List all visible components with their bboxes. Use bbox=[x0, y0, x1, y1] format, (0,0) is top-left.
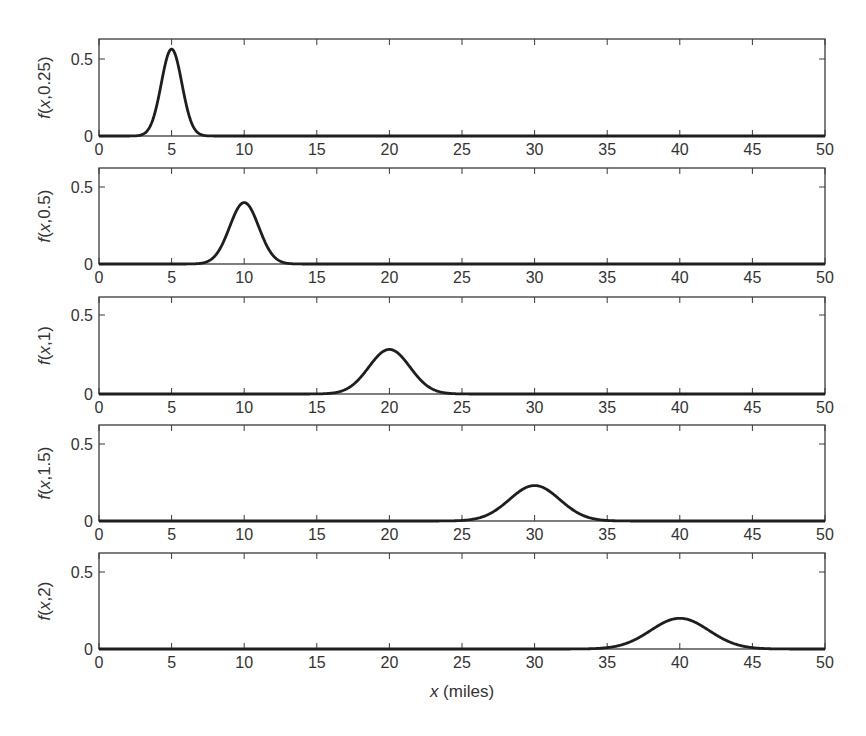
x-tick-label: 35 bbox=[598, 526, 616, 543]
y-axis-label: f(x,1.5) bbox=[35, 447, 54, 500]
y-axis-label: f(x,0.5) bbox=[35, 190, 54, 243]
x-tick-label: 35 bbox=[598, 269, 616, 286]
subplot-4: 0510152025303540455000.5f(x,1.5) bbox=[35, 425, 834, 543]
x-tick-label: 5 bbox=[167, 654, 176, 671]
x-tick-label: 35 bbox=[598, 399, 616, 416]
x-tick-label: 15 bbox=[308, 526, 326, 543]
y-tick-label: 0.5 bbox=[71, 179, 93, 196]
x-tick-label: 20 bbox=[381, 654, 399, 671]
x-tick-label: 40 bbox=[671, 141, 689, 158]
density-curve bbox=[99, 49, 825, 136]
axes-frame bbox=[99, 297, 825, 394]
x-tick-label: 0 bbox=[95, 526, 104, 543]
x-tick-label: 50 bbox=[816, 526, 834, 543]
x-tick-label: 50 bbox=[816, 141, 834, 158]
x-tick-label: 50 bbox=[816, 399, 834, 416]
x-tick-label: 20 bbox=[381, 526, 399, 543]
axes-frame bbox=[99, 39, 825, 136]
x-axis-unit: (miles) bbox=[438, 682, 494, 701]
x-tick-label: 20 bbox=[381, 141, 399, 158]
x-tick-label: 10 bbox=[235, 399, 253, 416]
subplot-3: 0510152025303540455000.5f(x,1) bbox=[35, 297, 834, 416]
x-tick-label: 10 bbox=[235, 654, 253, 671]
x-tick-label: 30 bbox=[526, 269, 544, 286]
x-tick-label: 15 bbox=[308, 654, 326, 671]
x-tick-label: 0 bbox=[95, 399, 104, 416]
x-tick-label: 0 bbox=[95, 269, 104, 286]
x-tick-label: 50 bbox=[816, 654, 834, 671]
y-tick-label: 0 bbox=[84, 513, 93, 530]
x-tick-label: 45 bbox=[744, 526, 762, 543]
y-tick-label: 0 bbox=[84, 256, 93, 273]
subplot-1: 0510152025303540455000.5f(x,0.25) bbox=[35, 39, 834, 158]
y-tick-label: 0.5 bbox=[71, 51, 93, 68]
x-tick-label: 35 bbox=[598, 141, 616, 158]
y-tick-label: 0.5 bbox=[71, 307, 93, 324]
x-tick-label: 40 bbox=[671, 269, 689, 286]
x-tick-label: 30 bbox=[526, 399, 544, 416]
y-axis-label: f(x,1) bbox=[35, 326, 54, 365]
x-tick-label: 0 bbox=[95, 654, 104, 671]
x-tick-label: 45 bbox=[744, 654, 762, 671]
x-tick-label: 30 bbox=[526, 141, 544, 158]
x-tick-label: 20 bbox=[381, 399, 399, 416]
x-tick-label: 30 bbox=[526, 654, 544, 671]
x-tick-label: 10 bbox=[235, 526, 253, 543]
y-tick-label: 0 bbox=[84, 641, 93, 658]
x-tick-label: 5 bbox=[167, 269, 176, 286]
x-tick-label: 40 bbox=[671, 654, 689, 671]
x-tick-label: 20 bbox=[381, 269, 399, 286]
y-tick-label: 0 bbox=[84, 128, 93, 145]
y-tick-label: 0 bbox=[84, 386, 93, 403]
subplot-5: 0510152025303540455000.5f(x,2) bbox=[35, 553, 834, 671]
x-tick-label: 45 bbox=[744, 269, 762, 286]
density-curve bbox=[99, 203, 825, 264]
subplot-2: 0510152025303540455000.5f(x,0.5) bbox=[35, 168, 834, 286]
density-curve bbox=[99, 349, 825, 394]
x-tick-label: 25 bbox=[453, 399, 471, 416]
x-tick-label: 45 bbox=[744, 141, 762, 158]
axes-frame bbox=[99, 168, 825, 264]
x-tick-label: 45 bbox=[744, 399, 762, 416]
x-tick-label: 0 bbox=[95, 141, 104, 158]
axes-frame bbox=[99, 425, 825, 521]
x-tick-label: 5 bbox=[167, 526, 176, 543]
y-tick-label: 0.5 bbox=[71, 436, 93, 453]
x-tick-label: 25 bbox=[453, 526, 471, 543]
y-tick-label: 0.5 bbox=[71, 564, 93, 581]
x-tick-label: 10 bbox=[235, 141, 253, 158]
figure: 0510152025303540455000.5f(x,0.25)0510152… bbox=[0, 0, 866, 736]
x-tick-label: 5 bbox=[167, 399, 176, 416]
x-axis-variable: x bbox=[429, 682, 439, 701]
x-tick-label: 15 bbox=[308, 269, 326, 286]
x-tick-label: 5 bbox=[167, 141, 176, 158]
x-tick-label: 30 bbox=[526, 526, 544, 543]
x-axis-label: x (miles) bbox=[429, 682, 494, 701]
subplot-stack: 0510152025303540455000.5f(x,0.25)0510152… bbox=[35, 39, 834, 671]
x-tick-label: 40 bbox=[671, 399, 689, 416]
x-tick-label: 25 bbox=[453, 269, 471, 286]
y-axis-label: f(x,0.25) bbox=[35, 56, 54, 118]
x-tick-label: 25 bbox=[453, 654, 471, 671]
y-axis-label: f(x,2) bbox=[35, 582, 54, 621]
x-tick-label: 10 bbox=[235, 269, 253, 286]
x-tick-label: 40 bbox=[671, 526, 689, 543]
x-tick-label: 35 bbox=[598, 654, 616, 671]
x-tick-label: 15 bbox=[308, 141, 326, 158]
x-tick-label: 50 bbox=[816, 269, 834, 286]
x-tick-label: 15 bbox=[308, 399, 326, 416]
x-tick-label: 25 bbox=[453, 141, 471, 158]
